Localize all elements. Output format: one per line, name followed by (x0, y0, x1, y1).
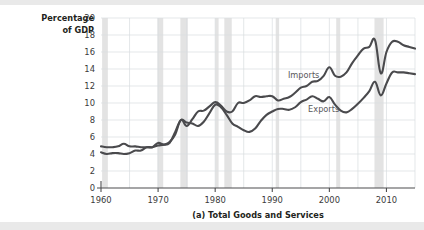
y-tick-label: 12 (84, 81, 95, 91)
chart-caption: (a) Total Goods and Services (192, 210, 324, 220)
y-tick-label: 16 (84, 47, 95, 57)
y-tick-label: 2 (90, 166, 95, 176)
x-tick-label: 2000 (319, 195, 340, 205)
y-tick-label: 6 (90, 132, 95, 142)
x-tick-label: 1970 (147, 195, 168, 205)
x-tick-label: 2010 (376, 195, 397, 205)
x-tick-label: 1990 (262, 195, 283, 205)
y-axis-title-line1: Percentage (41, 13, 94, 23)
top-edge-strip (0, 0, 424, 5)
y-tick-label: 0 (90, 183, 95, 193)
y-tick-label: 8 (90, 115, 95, 125)
y-tick-label: 14 (84, 64, 95, 74)
x-tick-label: 1980 (205, 195, 226, 205)
bottom-edge-strip (0, 222, 424, 230)
y-axis-title-line2: of GDP (62, 25, 94, 35)
x-tick-label: 1960 (90, 195, 111, 205)
line-chart: 0246810121416182019601970198019902000201… (0, 0, 424, 230)
series-annotation-exports: Exports (308, 104, 339, 114)
series-annotation-imports: Imports (288, 70, 319, 80)
chart-figure: 0246810121416182019601970198019902000201… (0, 0, 424, 230)
y-tick-label: 4 (90, 149, 95, 159)
y-tick-label: 10 (84, 98, 95, 108)
